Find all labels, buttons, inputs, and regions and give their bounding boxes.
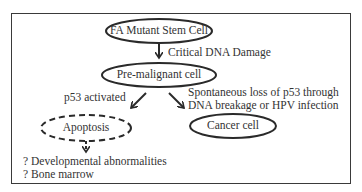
arrow-to-cancer — [169, 93, 184, 108]
p53-activated-label: p53 activated — [64, 91, 126, 104]
arrow-to-apoptosis — [131, 93, 146, 108]
premalignant-node-label: Pre-malignant cell — [102, 68, 216, 81]
critical-damage-label: Critical DNA Damage — [168, 46, 271, 59]
stem-cell-node-label: FA Mutant Stem Cell — [106, 24, 212, 37]
apoptosis-node-label: Apoptosis — [41, 121, 131, 134]
cancer-node-label: Cancer cell — [190, 119, 276, 132]
p53-loss-label-line2: DNA breakage or HPV infection — [188, 99, 339, 112]
p53-loss-label-line1: Spontaneous loss of p53 through — [188, 86, 339, 99]
bone-marrow-outcome-label: ? Bone marrow — [23, 168, 94, 181]
developmental-outcome-label: ? Developmental abnormalities — [23, 155, 167, 168]
